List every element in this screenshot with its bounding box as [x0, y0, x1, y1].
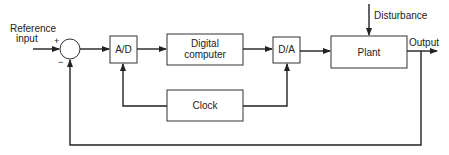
- plant-label: Plant: [358, 47, 381, 58]
- computer-label-2: computer: [184, 49, 226, 60]
- reference-input-label-2: input: [16, 33, 38, 44]
- clock-block: Clock: [167, 90, 243, 121]
- clock-label: Clock: [192, 100, 218, 111]
- clock-to-ad-arrow: [123, 64, 167, 106]
- block-diagram: Reference input + − A/D Digital computer…: [0, 0, 449, 155]
- ad-label: A/D: [115, 44, 132, 55]
- plus-sign: +: [54, 36, 59, 46]
- minus-sign: −: [58, 57, 63, 67]
- clock-to-da-arrow: [243, 64, 287, 106]
- digital-computer-block: Digital computer: [167, 34, 243, 65]
- output-label: Output: [409, 37, 439, 48]
- plant-block: Plant: [331, 36, 407, 68]
- da-block: D/A: [273, 37, 300, 63]
- summing-junction: [60, 39, 80, 59]
- disturbance-label: Disturbance: [374, 10, 428, 21]
- da-label: D/A: [278, 44, 295, 55]
- computer-label-1: Digital: [191, 38, 219, 49]
- ad-block: A/D: [110, 36, 137, 63]
